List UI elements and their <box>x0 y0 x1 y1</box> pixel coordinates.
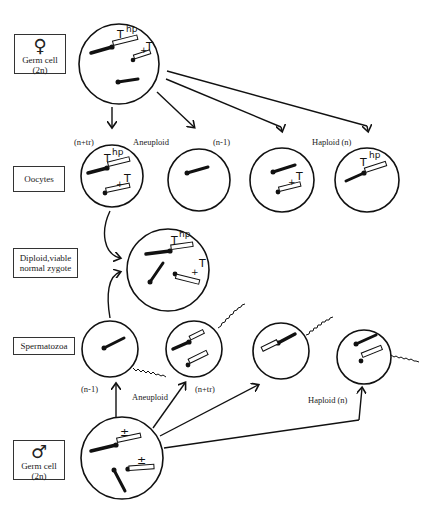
zygote: T hp + T <box>127 229 209 311</box>
sperm-haploid-white-head <box>337 330 419 384</box>
oocyte-n-plus-tr: T hp + T <box>81 145 143 207</box>
svg-text:T: T <box>103 152 111 165</box>
svg-text:+: + <box>116 179 124 189</box>
svg-text:T: T <box>295 170 303 183</box>
svg-text:hp: hp <box>126 24 138 34</box>
svg-text:±: ± <box>137 454 146 467</box>
male-germ-cell: ± ± <box>81 417 163 499</box>
oocyte-aneuploid-plus-t: + T <box>250 148 314 212</box>
sperm-haploid-black-head <box>253 317 333 379</box>
svg-text:+: + <box>191 267 199 277</box>
sperm-n-plus-tr <box>166 304 245 377</box>
svg-text:hp: hp <box>179 229 191 239</box>
svg-text:T: T <box>145 40 153 53</box>
sperm-n-minus-1 <box>82 321 166 377</box>
svg-text:hp: hp <box>369 150 381 160</box>
svg-text:T: T <box>123 172 131 185</box>
svg-text:+: + <box>288 177 296 187</box>
meiosis-diagram: T hp + T T hp + T + <box>0 0 439 513</box>
oocyte-n-minus-1 <box>168 149 230 211</box>
svg-text:hp: hp <box>112 147 124 157</box>
oocyte-haploid: T hp <box>335 148 399 212</box>
svg-text:T: T <box>170 234 178 247</box>
gene-T: T <box>116 28 124 41</box>
svg-text:T: T <box>198 257 206 270</box>
svg-text:T: T <box>359 156 367 169</box>
gene-plus-minus: ± <box>120 426 129 439</box>
female-germ-cell: T hp + T <box>79 24 159 104</box>
